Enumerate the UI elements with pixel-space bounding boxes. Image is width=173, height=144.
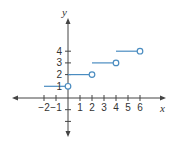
y-axis-down-arrow-icon (66, 131, 71, 137)
y-axis-up-arrow-icon (66, 18, 71, 24)
x-axis-right-arrow-icon (160, 96, 166, 101)
x-axis-left-arrow-icon (12, 96, 18, 101)
step-function-chart: xy−2−11234561234 (0, 0, 173, 144)
x-tick-label: 4 (113, 102, 119, 113)
x-tick-label: 2 (89, 102, 95, 113)
x-tick-label: −2 (38, 102, 50, 113)
y-tick-label: 4 (56, 46, 62, 57)
y-tick-label: 2 (56, 69, 62, 80)
x-tick-label: 5 (125, 102, 131, 113)
open-endpoint-icon (113, 60, 119, 66)
x-tick-label: −1 (50, 102, 62, 113)
y-tick-label: 1 (56, 81, 62, 92)
y-axis-label: y (61, 6, 67, 18)
open-endpoint-icon (65, 84, 71, 90)
x-tick-label: 6 (137, 102, 143, 113)
axes (12, 18, 166, 137)
x-tick-label: 3 (101, 102, 107, 113)
open-endpoint-icon (89, 72, 95, 78)
x-tick-label: 1 (77, 102, 83, 113)
y-tick-label: 3 (56, 57, 62, 68)
open-endpoint-icon (137, 48, 143, 54)
x-axis-label: x (159, 102, 165, 114)
